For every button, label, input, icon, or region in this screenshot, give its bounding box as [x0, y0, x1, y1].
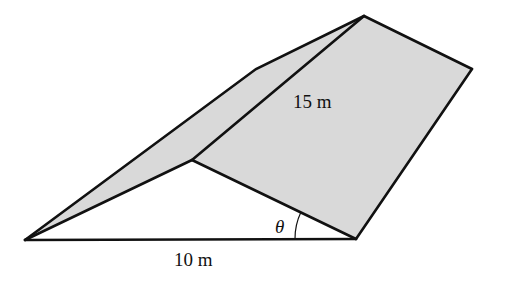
- angle-arc: [295, 212, 301, 239]
- base-label: 10 m: [174, 249, 213, 270]
- angle-label: θ: [275, 216, 284, 237]
- inner-left-edge: [25, 160, 192, 240]
- hypotenuse-label: 15 m: [293, 91, 332, 112]
- prism-ramp-diagram: 15 m θ 10 m: [0, 0, 505, 287]
- base-edge: [25, 239, 356, 240]
